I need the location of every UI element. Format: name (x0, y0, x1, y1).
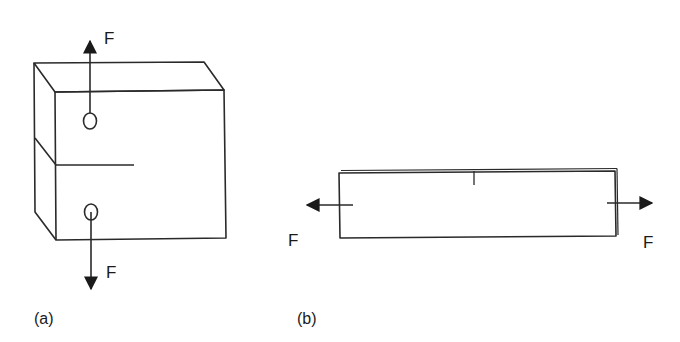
caption-a: (a) (34, 310, 54, 327)
plate-right-edge (617, 169, 618, 236)
force-label-right: F (643, 233, 653, 252)
pin-hole-top (84, 113, 97, 129)
diagram-canvas: F F (a) F F (b) (0, 0, 680, 342)
force-label-top: F (104, 29, 114, 48)
caption-b: (b) (297, 310, 317, 327)
figure-b (307, 169, 652, 239)
plate-outline (339, 171, 616, 238)
force-label-bottom: F (106, 263, 116, 282)
crack-side (35, 138, 56, 165)
figure-a (34, 41, 226, 289)
specimen-top-face (34, 62, 224, 92)
force-label-left: F (288, 231, 298, 250)
plate-top-edge (341, 169, 617, 171)
